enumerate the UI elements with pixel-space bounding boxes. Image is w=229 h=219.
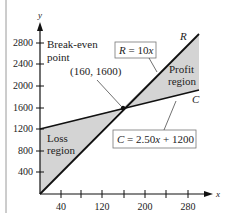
x-tick-40: 40 bbox=[56, 201, 66, 212]
y-tick-800: 800 bbox=[18, 145, 33, 156]
loss-region-label-line2: region bbox=[47, 144, 76, 156]
y-tick-2400: 2400 bbox=[13, 58, 33, 69]
break-even-point-marker bbox=[121, 106, 125, 110]
break-even-leader-line bbox=[97, 80, 121, 106]
y-axis-arrow-icon bbox=[37, 22, 43, 31]
break-even-label-line1: Break-even bbox=[47, 38, 98, 50]
y-axis-label: y bbox=[37, 10, 42, 20]
revenue-equation: R = 10x bbox=[118, 44, 153, 56]
loss-region-label-line1: Loss bbox=[47, 132, 68, 144]
x-tick-labels: 40 120 200 280 bbox=[56, 201, 196, 212]
cost-equation: C = 2.50x + 1200 bbox=[117, 133, 194, 145]
profit-region-label-line1: Profit bbox=[169, 63, 194, 75]
y-tick-1600: 1600 bbox=[13, 102, 33, 113]
y-tick-labels: 2800 2400 2000 1600 1200 800 400 bbox=[13, 37, 33, 177]
y-tick-2000: 2000 bbox=[13, 80, 33, 91]
break-even-coordinates: (160, 1600) bbox=[70, 65, 122, 78]
revenue-line-label: R bbox=[179, 30, 187, 42]
profit-region-label-line2: region bbox=[168, 75, 197, 87]
cost-line bbox=[40, 90, 199, 129]
x-tick-280: 280 bbox=[181, 201, 196, 212]
cost-leader-line bbox=[164, 101, 176, 130]
cost-line-label: C bbox=[192, 93, 200, 105]
x-tick-120: 120 bbox=[95, 201, 110, 212]
x-tick-200: 200 bbox=[138, 201, 153, 212]
x-axis-arrow-icon bbox=[204, 191, 213, 197]
y-tick-2800: 2800 bbox=[13, 37, 33, 48]
y-tick-400: 400 bbox=[18, 166, 33, 177]
break-even-chart: y x 2800 2400 2000 1600 1200 800 400 40 … bbox=[0, 0, 229, 219]
revenue-leader-line bbox=[149, 58, 157, 72]
x-axis-label: x bbox=[215, 189, 220, 199]
break-even-label-line2: point bbox=[47, 51, 70, 63]
y-tick-1200: 1200 bbox=[13, 123, 33, 134]
